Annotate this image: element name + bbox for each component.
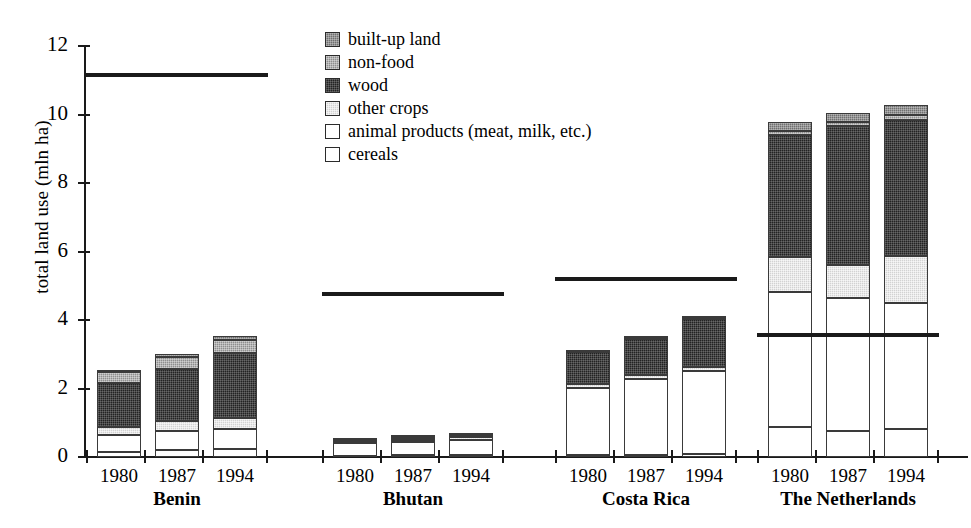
bar-segment-cereals [768, 427, 812, 457]
reference-line-benin [86, 73, 268, 77]
bar-segment-wood [155, 369, 199, 421]
bar-segment-cereals [566, 455, 610, 457]
bar-segment-animal [624, 379, 668, 454]
bar-segment-nonfood [826, 122, 870, 126]
y-tick-4 [78, 319, 90, 321]
bar-segment-builtup [333, 438, 377, 440]
legend-item-othercrops[interactable]: other crops [325, 97, 591, 120]
bar-segment-wood [97, 383, 141, 427]
legend-label: non-food [348, 53, 414, 72]
y-tick-label-8: 8 [22, 171, 68, 192]
bar-segment-builtup [97, 370, 141, 373]
bar-costa-rica-1994[interactable] [682, 317, 726, 457]
x-label-the-netherlands-1987: 1987 [817, 466, 879, 486]
reference-line-the-netherlands [757, 333, 939, 337]
x-label-bhutan-1994: 1994 [440, 466, 502, 486]
x-label-bhutan-1980: 1980 [324, 466, 386, 486]
bar-segment-othercrops [826, 265, 870, 298]
x-tick [502, 450, 504, 463]
y-tick-label-0: 0 [22, 445, 68, 466]
bar-costa-rica-1987[interactable] [624, 338, 668, 457]
bar-benin-1994[interactable] [213, 333, 257, 457]
bar-segment-builtup [155, 354, 199, 357]
bar-segment-builtup [768, 122, 812, 131]
bar-segment-nonfood [884, 115, 928, 120]
legend-item-cereals[interactable]: cereals [325, 143, 591, 166]
x-label-costa-rica-1980: 1980 [557, 466, 619, 486]
bar-benin-1980[interactable] [97, 368, 141, 457]
bar-costa-rica-1980[interactable] [566, 351, 610, 457]
bar-the-netherlands-1987[interactable] [826, 113, 870, 457]
bar-segment-cereals [682, 454, 726, 457]
bar-segment-wood [768, 135, 812, 258]
bar-bhutan-1994[interactable] [449, 434, 493, 457]
x-label-the-netherlands-1994: 1994 [875, 466, 937, 486]
bar-segment-builtup [624, 336, 668, 338]
bar-segment-animal [884, 303, 928, 429]
legend-swatch-wood-icon [325, 78, 340, 93]
x-tick [86, 450, 88, 463]
legend-label: other crops [348, 99, 428, 118]
y-tick-10 [78, 114, 90, 116]
legend-item-animal[interactable]: animal products (meat, milk, etc.) [325, 120, 591, 143]
bar-the-netherlands-1980[interactable] [768, 122, 812, 457]
bar-segment-othercrops [884, 256, 928, 303]
y-tick-0 [78, 456, 90, 458]
bar-segment-wood [884, 120, 928, 256]
x-label-bhutan-1987: 1987 [382, 466, 444, 486]
x-tick [613, 450, 615, 463]
bar-segment-othercrops [213, 418, 257, 430]
bar-segment-animal [566, 388, 610, 455]
bar-segment-cereals [884, 429, 928, 457]
x-tick [815, 450, 817, 463]
bar-segment-animal [391, 442, 435, 456]
bar-segment-nonfood [768, 131, 812, 135]
y-tick-6 [78, 251, 90, 253]
legend-item-builtup[interactable]: built-up land [325, 28, 591, 51]
x-label-costa-rica-1987: 1987 [615, 466, 677, 486]
bar-segment-builtup [449, 433, 493, 435]
legend-swatch-othercrops-icon [325, 101, 340, 116]
bar-segment-animal [826, 298, 870, 431]
bar-segment-othercrops [391, 440, 435, 442]
bar-segment-othercrops [333, 441, 377, 443]
bar-segment-cereals [391, 455, 435, 457]
bar-segment-builtup [566, 350, 610, 352]
x-tick [555, 450, 557, 463]
x-tick [671, 450, 673, 463]
x-label-costa-rica-1994: 1994 [673, 466, 735, 486]
x-tick [873, 450, 875, 463]
legend-label: animal products (meat, milk, etc.) [348, 122, 591, 141]
y-tick-label-12: 12 [22, 34, 68, 55]
x-tick [380, 450, 382, 463]
bar-segment-nonfood [97, 372, 141, 382]
bar-segment-wood [213, 353, 257, 418]
y-tick-label-10: 10 [22, 103, 68, 124]
bar-segment-othercrops [97, 427, 141, 435]
x-tick [266, 450, 268, 463]
reference-line-bhutan [322, 292, 504, 296]
legend-swatch-nonfood-icon [325, 55, 340, 70]
bar-segment-othercrops [682, 367, 726, 372]
bar-the-netherlands-1994[interactable] [884, 105, 928, 457]
legend-item-wood[interactable]: wood [325, 74, 591, 97]
x-tick [735, 450, 737, 463]
x-label-benin-1987: 1987 [146, 466, 208, 486]
legend-label: wood [348, 76, 388, 95]
bar-segment-wood [624, 339, 668, 375]
bar-segment-cereals [624, 455, 668, 457]
bar-bhutan-1980[interactable] [333, 439, 377, 457]
bar-segment-othercrops [566, 384, 610, 388]
group-label-bhutan: Bhutan [293, 489, 533, 509]
bar-benin-1987[interactable] [155, 351, 199, 457]
bar-bhutan-1987[interactable] [391, 437, 435, 457]
x-tick [202, 450, 204, 463]
bar-segment-nonfood [213, 340, 257, 353]
legend-item-nonfood[interactable]: non-food [325, 51, 591, 74]
bar-segment-builtup [884, 105, 928, 116]
x-tick [757, 450, 759, 463]
group-label-the-netherlands: The Netherlands [728, 489, 968, 509]
y-tick-8 [78, 182, 90, 184]
bar-segment-animal [682, 371, 726, 454]
x-tick [937, 450, 939, 463]
